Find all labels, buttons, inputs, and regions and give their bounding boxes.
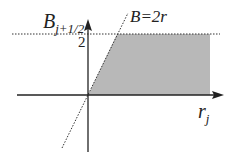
tvd-limiter-diagram: Bj+1/2 2 B=2r rj [0,0,234,157]
y-axis-label: Bj+1/2 [43,10,85,36]
line-label-b-equals-2r: B=2r [130,7,167,26]
x-axis-label: rj [198,100,210,126]
tick-label-2: 2 [78,34,86,50]
shaded-tvd-region [88,34,210,95]
